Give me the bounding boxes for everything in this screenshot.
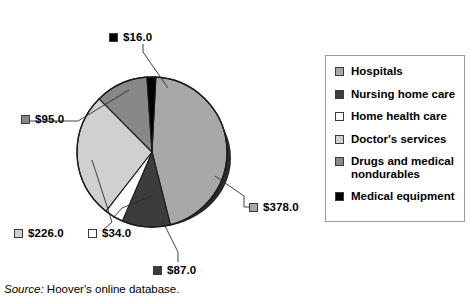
legend-item-label: Medical equipment xyxy=(351,190,455,203)
value-text-doctors: $226.0 xyxy=(28,228,64,240)
value-swatch-medical-equipment xyxy=(109,33,118,42)
value-label-home-health: $34.0 xyxy=(88,228,131,240)
source-text: Hoover's online database. xyxy=(47,283,180,295)
value-swatch-hospitals xyxy=(249,203,258,212)
pie-slices-group xyxy=(77,77,227,227)
value-label-drugs: $95.0 xyxy=(21,114,64,126)
legend-item[interactable]: Medical equipment xyxy=(335,190,456,203)
legend-item-label: Nursing home care xyxy=(351,88,455,101)
value-swatch-home-health xyxy=(88,229,97,238)
legend-swatch xyxy=(335,112,344,121)
leader-nursing xyxy=(163,222,178,262)
legend-item-label: Doctor's services xyxy=(351,133,446,146)
legend-swatch xyxy=(335,67,344,76)
legend-item[interactable]: Nursing home care xyxy=(335,88,456,101)
value-text-drugs: $95.0 xyxy=(35,114,64,126)
legend: HospitalsNursing home careHome health ca… xyxy=(325,55,465,222)
source-note: Source: Hoover's online database. xyxy=(4,283,179,295)
value-swatch-drugs xyxy=(21,115,30,124)
legend-item-label: Home health care xyxy=(351,110,447,123)
value-text-hospitals: $378.0 xyxy=(263,202,299,214)
legend-item[interactable]: Home health care xyxy=(335,110,456,123)
value-label-nursing: $87.0 xyxy=(153,265,196,277)
legend-item[interactable]: Hospitals xyxy=(335,65,456,78)
value-swatch-nursing xyxy=(153,266,162,275)
value-label-doctors: $226.0 xyxy=(14,228,64,240)
legend-swatch xyxy=(335,135,344,144)
value-label-hospitals: $378.0 xyxy=(249,202,299,214)
value-text-medical-equipment: $16.0 xyxy=(123,32,152,44)
legend-item[interactable]: Drugs and medicalnondurables xyxy=(335,155,456,180)
legend-item-label: Drugs and medicalnondurables xyxy=(351,155,454,180)
legend-item-label: Hospitals xyxy=(351,65,403,78)
value-label-medical-equipment: $16.0 xyxy=(109,32,152,44)
legend-swatch xyxy=(335,157,344,166)
value-text-home-health: $34.0 xyxy=(102,228,131,240)
source-keyword: Source: xyxy=(4,283,44,295)
legend-swatch xyxy=(335,90,344,99)
legend-swatch xyxy=(335,192,344,201)
pie-chart-figure: $16.0 $95.0 $226.0 $34.0 $87.0 $378.0 Ho… xyxy=(0,0,473,304)
value-text-nursing: $87.0 xyxy=(167,265,196,277)
value-swatch-doctors xyxy=(14,229,23,238)
pie-plot-area: $16.0 $95.0 $226.0 $34.0 $87.0 $378.0 xyxy=(0,0,320,270)
legend-item[interactable]: Doctor's services xyxy=(335,133,456,146)
